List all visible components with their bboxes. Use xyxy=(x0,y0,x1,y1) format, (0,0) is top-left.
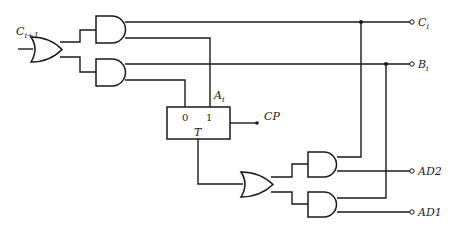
logic-circuit-diagram: Ci+1 Ai 0 1 T CP xyxy=(0,0,454,230)
or-gate-left xyxy=(31,37,62,62)
wire-and-ad1-to-or xyxy=(271,192,308,204)
and-gate-upper xyxy=(96,16,126,43)
flipflop-pin-1: 1 xyxy=(206,112,212,123)
wire-or-to-and-upper xyxy=(60,30,96,42)
junction-borrow xyxy=(384,62,388,66)
clock-label: CP xyxy=(264,110,280,123)
or-gate-bottom xyxy=(241,172,273,197)
wire-carry-to-and-ad2 xyxy=(337,22,361,157)
and-gate-lower xyxy=(96,59,126,86)
clock-terminal-dot xyxy=(255,121,259,125)
svg-text:Ci: Ci xyxy=(418,16,429,31)
wire-ai xyxy=(125,38,210,108)
wire-and-ad2-to-or xyxy=(271,164,308,177)
flipflop-pin-0: 0 xyxy=(182,112,188,123)
terminal-carry-out xyxy=(410,20,414,24)
ad2-label: AD2 xyxy=(417,165,442,178)
wire-a-not xyxy=(125,80,185,108)
and-gate-ad2 xyxy=(308,152,337,177)
and-gate-ad1 xyxy=(308,192,336,217)
carry-out-label: Ci xyxy=(418,16,429,31)
borrow-out-label: Bi xyxy=(417,58,429,73)
svg-text:Bi: Bi xyxy=(417,58,429,73)
ad1-label: AD1 xyxy=(417,206,442,219)
terminal-ad1 xyxy=(410,210,414,214)
ai-label: Ai xyxy=(213,89,225,104)
wire-t-input xyxy=(198,139,243,184)
wire-or-to-and-lower xyxy=(60,57,96,72)
junction-carry xyxy=(359,20,363,24)
terminal-borrow-out xyxy=(410,62,414,66)
svg-text:Ai: Ai xyxy=(213,89,225,104)
terminal-ad2 xyxy=(410,169,414,173)
